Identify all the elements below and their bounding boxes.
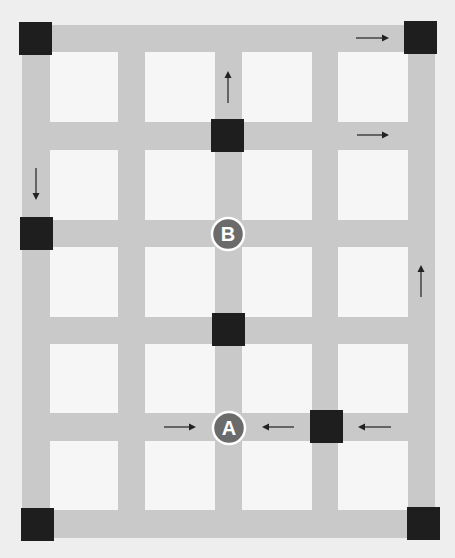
vertical-road-2 xyxy=(118,25,145,538)
marker-b: B xyxy=(212,218,244,250)
city-block xyxy=(50,344,118,413)
city-block xyxy=(50,441,118,510)
city-block xyxy=(338,441,408,510)
city-block xyxy=(145,52,215,122)
sq-row5-right-icon xyxy=(310,410,343,443)
city-block xyxy=(50,150,118,220)
city-block xyxy=(338,247,408,317)
sq-row2-center-icon xyxy=(211,119,244,152)
city-block xyxy=(242,344,312,413)
sq-bottom-left-icon xyxy=(21,508,54,541)
vertical-road-1 xyxy=(22,25,50,538)
city-block xyxy=(338,52,408,122)
marker-label: B xyxy=(221,223,235,245)
sq-row4-center-icon xyxy=(212,313,245,346)
city-block xyxy=(50,247,118,317)
city-block xyxy=(338,344,408,413)
sq-top-right-icon xyxy=(404,21,437,54)
street-grid-diagram: BA xyxy=(0,0,455,558)
sq-row3-left-icon xyxy=(20,217,53,250)
city-block xyxy=(242,247,312,317)
city-block xyxy=(145,247,215,317)
city-block xyxy=(145,344,215,413)
vertical-road-4 xyxy=(312,25,338,538)
city-block xyxy=(145,441,215,510)
horizontal-road-6 xyxy=(22,510,435,538)
sq-top-left-icon xyxy=(19,22,52,55)
city-block xyxy=(242,441,312,510)
city-block xyxy=(50,52,118,122)
marker-label: A xyxy=(222,417,236,439)
sq-bottom-right-icon xyxy=(407,507,440,540)
city-block xyxy=(145,150,215,220)
marker-a: A xyxy=(213,412,245,444)
city-block xyxy=(338,150,408,220)
city-block xyxy=(242,52,312,122)
city-block xyxy=(242,150,312,220)
